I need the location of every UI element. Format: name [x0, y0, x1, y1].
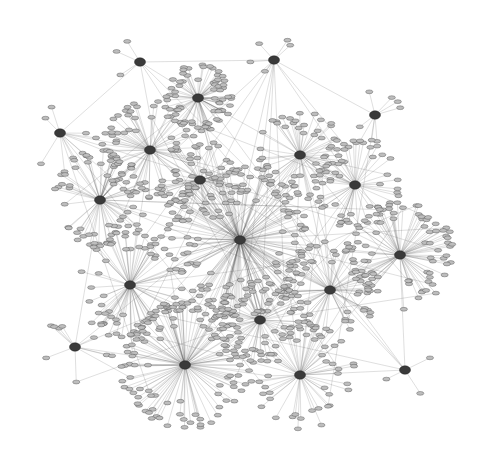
leaf-node[interactable]	[179, 219, 186, 223]
leaf-node[interactable]	[214, 413, 221, 417]
leaf-node[interactable]	[157, 326, 164, 330]
leaf-node[interactable]	[449, 242, 456, 246]
leaf-node[interactable]	[227, 161, 234, 165]
network-graph-canvas[interactable]	[0, 0, 479, 453]
leaf-node[interactable]	[141, 234, 148, 238]
leaf-node[interactable]	[213, 118, 220, 122]
leaf-node[interactable]	[297, 307, 304, 311]
leaf-node[interactable]	[338, 214, 345, 218]
leaf-node[interactable]	[170, 324, 177, 328]
leaf-node[interactable]	[205, 172, 212, 176]
leaf-node[interactable]	[274, 359, 281, 363]
leaf-node[interactable]	[279, 337, 286, 341]
leaf-node[interactable]	[239, 302, 246, 306]
leaf-node[interactable]	[186, 210, 193, 214]
leaf-node[interactable]	[267, 397, 274, 401]
leaf-node[interactable]	[120, 187, 127, 191]
leaf-node[interactable]	[316, 169, 323, 173]
leaf-node[interactable]	[128, 167, 135, 171]
leaf-node[interactable]	[197, 423, 204, 427]
leaf-node[interactable]	[124, 39, 131, 43]
leaf-node[interactable]	[225, 95, 232, 99]
leaf-node[interactable]	[427, 256, 434, 260]
leaf-node[interactable]	[218, 166, 225, 170]
leaf-node[interactable]	[59, 324, 66, 328]
leaf-node[interactable]	[292, 119, 299, 123]
leaf-node[interactable]	[217, 88, 224, 92]
leaf-node[interactable]	[187, 421, 194, 425]
hub-node[interactable]	[325, 286, 336, 294]
leaf-node[interactable]	[257, 147, 264, 151]
leaf-node[interactable]	[304, 301, 311, 305]
leaf-node[interactable]	[164, 227, 171, 231]
leaf-node[interactable]	[397, 106, 404, 110]
leaf-node[interactable]	[117, 73, 124, 77]
leaf-node[interactable]	[323, 360, 330, 364]
leaf-node[interactable]	[166, 192, 173, 196]
leaf-node[interactable]	[171, 119, 178, 123]
leaf-node[interactable]	[239, 355, 246, 359]
leaf-node[interactable]	[164, 401, 171, 405]
leaf-node[interactable]	[61, 202, 68, 206]
leaf-node[interactable]	[312, 162, 319, 166]
leaf-node[interactable]	[352, 277, 359, 281]
leaf-node[interactable]	[281, 284, 288, 288]
leaf-node[interactable]	[295, 325, 302, 329]
leaf-node[interactable]	[443, 262, 450, 266]
leaf-node[interactable]	[102, 131, 109, 135]
leaf-node[interactable]	[209, 305, 216, 309]
leaf-node[interactable]	[441, 273, 448, 277]
leaf-node[interactable]	[236, 318, 243, 322]
leaf-node[interactable]	[231, 352, 238, 356]
leaf-node[interactable]	[90, 336, 97, 340]
leaf-node[interactable]	[216, 183, 223, 187]
leaf-node[interactable]	[394, 178, 401, 182]
leaf-node[interactable]	[194, 262, 201, 266]
leaf-node[interactable]	[186, 157, 193, 161]
leaf-node[interactable]	[294, 294, 301, 298]
leaf-node[interactable]	[317, 118, 324, 122]
leaf-node[interactable]	[328, 121, 335, 125]
leaf-node[interactable]	[145, 195, 152, 199]
leaf-node[interactable]	[237, 278, 244, 282]
leaf-node[interactable]	[314, 129, 321, 133]
leaf-node[interactable]	[118, 173, 125, 177]
leaf-node[interactable]	[133, 338, 140, 342]
leaf-node[interactable]	[313, 186, 320, 190]
leaf-node[interactable]	[104, 174, 111, 178]
leaf-node[interactable]	[332, 171, 339, 175]
leaf-node[interactable]	[321, 386, 328, 390]
leaf-node[interactable]	[215, 144, 222, 148]
leaf-node[interactable]	[224, 112, 231, 116]
leaf-node[interactable]	[130, 175, 137, 179]
leaf-node[interactable]	[189, 289, 196, 293]
leaf-node[interactable]	[173, 302, 180, 306]
leaf-node[interactable]	[95, 272, 102, 276]
leaf-node[interactable]	[374, 144, 381, 148]
leaf-node[interactable]	[249, 290, 256, 294]
leaf-node[interactable]	[426, 356, 433, 360]
network-graph[interactable]	[0, 0, 479, 453]
leaf-node[interactable]	[158, 235, 165, 239]
leaf-node[interactable]	[88, 286, 95, 290]
leaf-node[interactable]	[135, 395, 142, 399]
leaf-node[interactable]	[226, 183, 233, 187]
leaf-node[interactable]	[42, 116, 49, 120]
leaf-node[interactable]	[204, 288, 211, 292]
leaf-node[interactable]	[345, 388, 352, 392]
leaf-node[interactable]	[296, 111, 303, 115]
leaf-node[interactable]	[312, 179, 319, 183]
leaf-node[interactable]	[338, 339, 345, 343]
leaf-node[interactable]	[184, 251, 191, 255]
leaf-node[interactable]	[276, 252, 283, 256]
leaf-node[interactable]	[415, 296, 422, 300]
leaf-node[interactable]	[265, 302, 272, 306]
leaf-node[interactable]	[216, 352, 223, 356]
leaf-node[interactable]	[127, 376, 134, 380]
leaf-node[interactable]	[226, 283, 233, 287]
leaf-node[interactable]	[113, 50, 120, 54]
leaf-node[interactable]	[291, 184, 298, 188]
leaf-node[interactable]	[86, 300, 93, 304]
leaf-node[interactable]	[367, 145, 374, 149]
leaf-node[interactable]	[347, 212, 354, 216]
